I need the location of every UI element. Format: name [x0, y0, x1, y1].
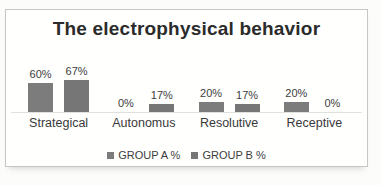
- bar-group-a-receptive: [284, 102, 309, 112]
- plot-area: 60%67%0%17%20%17%20%0%: [16, 64, 357, 112]
- bar-group-receptive: 20%0%: [272, 64, 357, 112]
- data-label-group-b-strategical: 67%: [66, 65, 88, 78]
- category-axis: StrategicalAutonomusResolutiveReceptive: [16, 116, 357, 130]
- legend-marker-icon: [191, 152, 198, 159]
- category-label-resolutive: Resolutive: [187, 116, 272, 130]
- data-label-group-a-resolutive: 20%: [200, 87, 222, 100]
- legend-marker-icon: [107, 152, 114, 159]
- chart-title: The electrophysical behavior: [6, 10, 367, 40]
- bar-group-autonomus: 0%17%: [101, 64, 186, 112]
- bar-slot-group-a-strategical: 60%: [28, 68, 53, 112]
- bar-slot-group-a-autonomus: 0%: [113, 97, 138, 112]
- legend-label: GROUP B %: [202, 149, 265, 161]
- bars-container: 60%67%0%17%20%17%20%0%: [16, 64, 357, 112]
- bar-slot-group-a-receptive: 20%: [284, 87, 309, 112]
- legend-item-group-b: GROUP B %: [191, 149, 265, 161]
- scanned-chart-page: { "chart_data": { "type": "bar", "title"…: [0, 0, 382, 185]
- legend-label: GROUP A %: [118, 149, 180, 161]
- bar-slot-group-b-resolutive: 17%: [235, 89, 260, 112]
- bar-group-strategical: 60%67%: [16, 64, 101, 112]
- bar-slot-group-a-resolutive: 20%: [199, 87, 224, 112]
- bar-group-resolutive: 20%17%: [187, 64, 272, 112]
- data-label-group-a-autonomus: 0%: [118, 97, 134, 110]
- legend: GROUP A %GROUP B %: [6, 149, 367, 161]
- bar-group-b-resolutive: [235, 104, 260, 112]
- bar-group-b-strategical: [64, 80, 89, 112]
- bar-group-a-strategical: [28, 83, 53, 112]
- data-label-group-a-strategical: 60%: [30, 68, 52, 81]
- legend-item-group-a: GROUP A %: [107, 149, 180, 161]
- bar-chart: The electrophysical behavior 60%67%0%17%…: [5, 9, 368, 167]
- data-label-group-b-resolutive: 17%: [236, 89, 258, 102]
- data-label-group-a-receptive: 20%: [285, 87, 307, 100]
- x-axis-line: [11, 112, 362, 113]
- bar-group-a-resolutive: [199, 102, 224, 112]
- bar-slot-group-b-autonomus: 17%: [149, 89, 174, 112]
- bar-slot-group-b-receptive: 0%: [320, 97, 345, 112]
- category-label-receptive: Receptive: [272, 116, 357, 130]
- data-label-group-b-receptive: 0%: [324, 97, 340, 110]
- bar-group-b-autonomus: [149, 104, 174, 112]
- data-label-group-b-autonomus: 17%: [151, 89, 173, 102]
- category-label-autonomus: Autonomus: [101, 116, 186, 130]
- bar-slot-group-b-strategical: 67%: [64, 65, 89, 112]
- category-label-strategical: Strategical: [16, 116, 101, 130]
